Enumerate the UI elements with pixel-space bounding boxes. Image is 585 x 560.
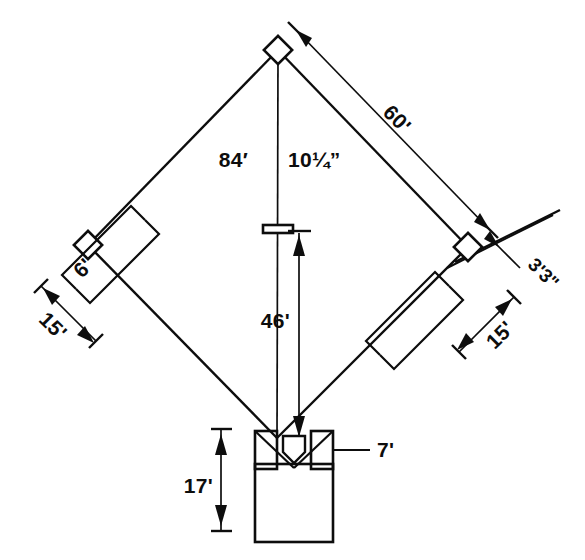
home-plate [283, 436, 305, 463]
left-coachs-box-outline [62, 206, 145, 289]
backstop [255, 464, 333, 542]
right-coachs-box: 15' [366, 272, 521, 369]
base-path-dimension-60: 60' [288, 22, 498, 238]
third-to-second-line [88, 50, 278, 245]
dim17-arrow-bottom [215, 505, 227, 526]
batters-box-area-label: 7' [377, 438, 394, 461]
dim46-arrow-bottom [293, 416, 305, 437]
home-to-third-line [88, 245, 277, 438]
first-base-offset-dimension: 3'3" [484, 231, 563, 293]
dim46-arrow-top [293, 235, 305, 256]
batters-box-dimension-7: 7' [333, 438, 394, 461]
first-base-offset-label: 3'3" [524, 254, 563, 293]
dim33-line [496, 244, 520, 268]
dim15left-arrow-bottom [77, 326, 94, 343]
field-drawing: 60' 84′ 10¼” 84' 10¼" 46' 6' [0, 0, 585, 560]
backstop-distance-label: 17' [184, 474, 213, 497]
right-coachs-box-outline-2 [366, 272, 449, 355]
pitching-distance-dimension-46: 46' [261, 231, 311, 437]
coach-box-length-left-label: 15' [35, 307, 72, 344]
coach-box-width-left-label: 6' [68, 253, 96, 281]
backstop-dimension-17: 17' [184, 429, 232, 531]
home-to-second-label-feet: 84′ [219, 148, 248, 171]
dim15right-arrow-bottom [457, 333, 474, 350]
pitching-distance-label: 46' [261, 309, 290, 332]
home-to-second-centerline [277, 52, 278, 440]
base-path-label: 60' [379, 100, 416, 137]
home-to-second-label-inches: 10¼” [288, 148, 341, 171]
right-coachs-box-outline [380, 286, 463, 369]
coach-box-length-right-label: 15' [481, 316, 518, 353]
left-coachs-box: 6' 15' [34, 206, 159, 348]
baseball-diamond-diagram: 60' 84′ 10¼” 84' 10¼" 46' 6' [0, 0, 585, 560]
dim17-arrow-top [215, 434, 227, 455]
